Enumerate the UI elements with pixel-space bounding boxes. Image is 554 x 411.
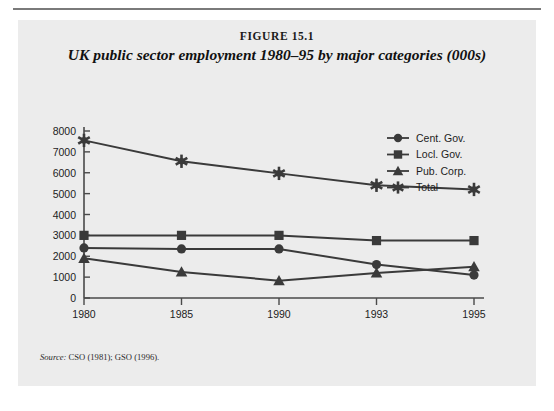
y-tick-label: 3000 bbox=[53, 229, 77, 241]
data-point-circle bbox=[79, 243, 88, 252]
figure-panel: FIGURE 15.1 UK public sector employment … bbox=[18, 20, 536, 386]
legend-label: Pub. Corp. bbox=[416, 165, 466, 177]
data-point-circle bbox=[274, 244, 283, 253]
y-tick-label: 2000 bbox=[53, 250, 77, 262]
source-note: Source: CSO (1981); GSO (1996). bbox=[40, 352, 159, 362]
data-point-triangle bbox=[78, 253, 90, 263]
data-point-circle bbox=[469, 270, 478, 279]
legend-item: Locl. Gov. bbox=[387, 148, 463, 160]
y-tick-label: 1000 bbox=[53, 271, 77, 283]
data-point-circle bbox=[177, 244, 186, 253]
legend-label: Cent. Gov. bbox=[416, 132, 465, 144]
y-tick-label: 6000 bbox=[53, 167, 77, 179]
x-tick-label: 1985 bbox=[170, 308, 194, 320]
chart-area: 0100020003000400050006000700080001980198… bbox=[18, 20, 536, 386]
legend-item: Cent. Gov. bbox=[387, 132, 465, 144]
data-point-square bbox=[274, 231, 283, 240]
legend-item: Pub. Corp. bbox=[387, 165, 466, 177]
data-point-square bbox=[177, 231, 186, 240]
source-label: Source: bbox=[40, 352, 66, 362]
x-tick-label: 1995 bbox=[462, 308, 486, 320]
y-tick-label: 8000 bbox=[53, 125, 77, 137]
y-tick-label: 7000 bbox=[53, 146, 77, 158]
y-tick-label: 4000 bbox=[53, 209, 77, 221]
legend-label: Total bbox=[416, 181, 438, 193]
page-top-rule bbox=[13, 8, 541, 10]
x-tick-label: 1990 bbox=[267, 308, 291, 320]
line-chart: 0100020003000400050006000700080001980198… bbox=[18, 20, 536, 386]
x-tick-label: 1993 bbox=[365, 308, 389, 320]
x-tick-label: 1980 bbox=[72, 308, 96, 320]
y-tick-label: 0 bbox=[70, 292, 76, 304]
data-point-square bbox=[79, 231, 88, 240]
y-tick-label: 5000 bbox=[53, 188, 77, 200]
data-point-square bbox=[372, 236, 381, 245]
data-point-square bbox=[469, 236, 478, 245]
source-text: CSO (1981); GSO (1996). bbox=[66, 352, 159, 362]
legend-label: Locl. Gov. bbox=[416, 148, 463, 160]
